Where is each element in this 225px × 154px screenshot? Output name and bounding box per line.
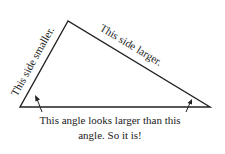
arrow-left (35, 95, 42, 112)
short-side-label: This side smaller. (8, 24, 56, 98)
triangle-diagram: This side smaller. This side larger. Thi… (0, 0, 225, 154)
caption-line-2: angle. So it is! (78, 129, 142, 141)
arrow-right (186, 99, 192, 112)
caption-line-1: This angle looks larger than this (39, 114, 180, 126)
